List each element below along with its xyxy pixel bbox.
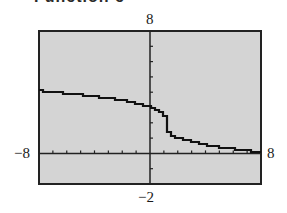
calculator-graph [0,0,287,213]
ymin-label: −2 [138,190,154,205]
ymax-label: 8 [146,12,154,27]
xmin-label: −8 [14,146,30,161]
xmax-label: 8 [267,146,275,161]
